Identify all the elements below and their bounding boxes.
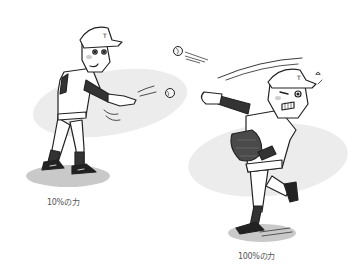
ball-flying-fast xyxy=(174,47,209,64)
svg-text:T: T xyxy=(102,32,107,39)
illustration: T xyxy=(0,0,353,273)
caption-10-percent-power: 10%の力 xyxy=(47,196,79,207)
left-ground-shadow xyxy=(26,165,110,187)
ball-tossed-soft xyxy=(166,89,175,98)
caption-100-percent-power: 100%の力 xyxy=(238,250,275,261)
svg-text:T: T xyxy=(296,74,301,81)
